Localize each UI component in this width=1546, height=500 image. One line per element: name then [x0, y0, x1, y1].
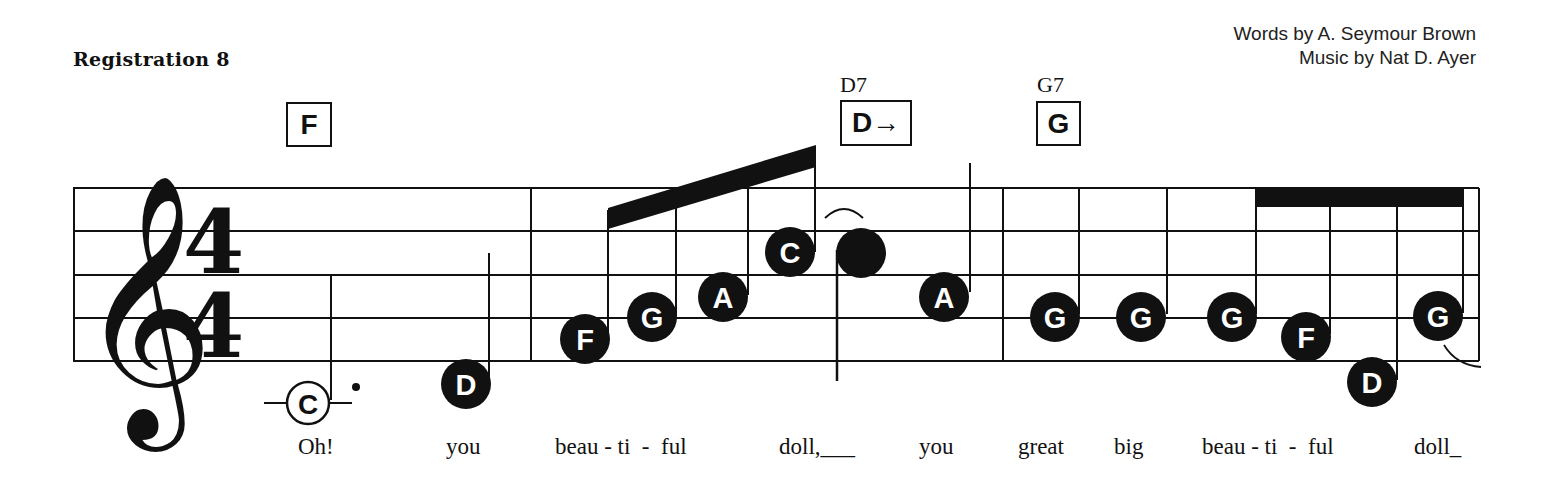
- measure-3: G G G F D G: [1030, 187, 1481, 407]
- svg-text:C: C: [780, 237, 801, 269]
- music-staff: 𝄞 4 4 C D F G A C A: [0, 0, 1546, 500]
- svg-text:D: D: [1362, 367, 1383, 399]
- lyric-big: big: [1114, 434, 1143, 460]
- svg-text:G: G: [1044, 302, 1067, 334]
- svg-text:D: D: [456, 369, 477, 401]
- lyric-doll-1: doll,___: [779, 434, 855, 460]
- lyric-oh: Oh!: [298, 434, 334, 460]
- time-signature: 4 4: [183, 190, 244, 378]
- svg-text:F: F: [576, 324, 594, 356]
- svg-text:G: G: [1221, 302, 1244, 334]
- staff-lines: [73, 188, 1479, 361]
- lyric-you-2: you: [919, 434, 954, 460]
- lyric-beautiful-2: beau - ti - ful: [1202, 434, 1334, 460]
- svg-text:A: A: [934, 282, 955, 314]
- svg-text:G: G: [641, 302, 664, 334]
- svg-text:G: G: [1130, 302, 1153, 334]
- measure-2: F G A C A: [560, 145, 970, 381]
- svg-text:C: C: [298, 389, 318, 420]
- svg-text:F: F: [1297, 322, 1315, 354]
- measure-1: C D: [264, 253, 491, 424]
- svg-text:4: 4: [183, 274, 244, 378]
- lyric-you-1: you: [446, 434, 481, 460]
- lyric-beautiful-1: beau - ti - ful: [555, 434, 687, 460]
- svg-text:A: A: [713, 282, 734, 314]
- svg-text:G: G: [1427, 301, 1450, 333]
- lyric-great: great: [1018, 434, 1064, 460]
- lyric-doll-2: doll_: [1414, 434, 1461, 460]
